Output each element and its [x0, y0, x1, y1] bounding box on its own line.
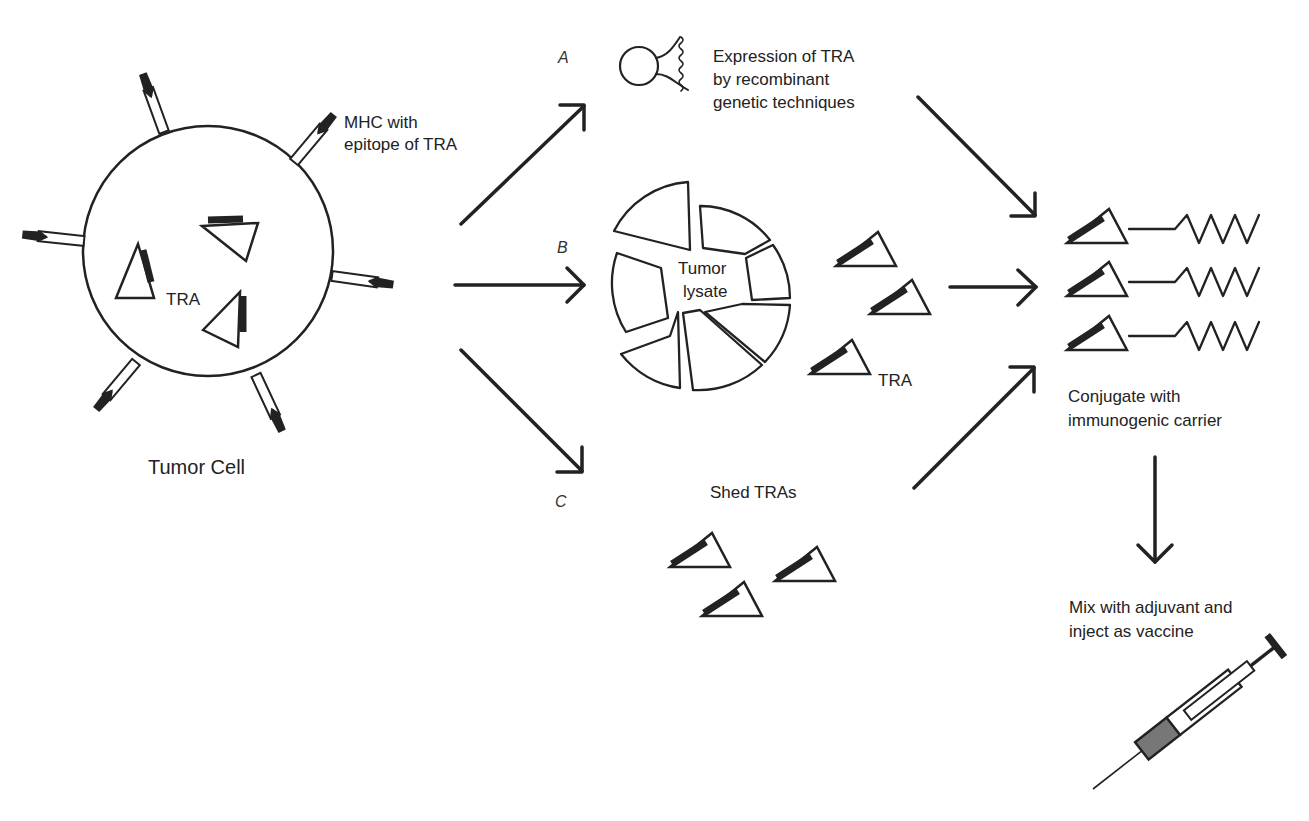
mhc-molecule-icon [290, 111, 338, 165]
tra-antigen-icon [836, 232, 896, 266]
mhc-molecule-icon [22, 230, 85, 246]
tra-carrier-conjugate [1067, 209, 1259, 243]
tra-carrier-conjugate [1067, 262, 1259, 296]
tra-antigen-icon [775, 547, 835, 581]
plasmid-icon [620, 37, 688, 91]
arrow-b-to-conjugate [950, 270, 1036, 305]
conjugate-label-line2: immunogenic carrier [1068, 411, 1222, 430]
tumor-lysate-label-line1: Tumor [678, 259, 727, 278]
mhc-molecule-icon [251, 373, 286, 433]
conjugate-label-line1: Conjugate with [1068, 387, 1180, 406]
tumor-cell: TRA Tumor Cell [22, 72, 394, 478]
tra-antigen-icon [670, 533, 730, 567]
mhc-label-line1: MHC with [344, 113, 418, 132]
pathway-letter-b: B [557, 239, 568, 256]
pathway-a-desc-line3: genetic techniques [713, 93, 855, 112]
tumor-vaccine-diagram: TRA Tumor Cell MHC with epitope of TRA A… [0, 0, 1309, 821]
tumor-cell-label: Tumor Cell [148, 456, 245, 478]
arrow-a-to-conjugate [918, 97, 1035, 216]
tra-carrier-conjugate [1067, 316, 1259, 350]
tra-antigen-icon [810, 340, 870, 374]
tra-inner-label: TRA [166, 290, 201, 309]
mhc-molecule-icon [331, 271, 394, 290]
tumor-lysate-label-line2: lysate [683, 282, 727, 301]
syringe-icon [1084, 635, 1284, 800]
tra-antigen-icon [870, 280, 930, 314]
arrow-to-vaccine [1138, 457, 1172, 562]
arrow-to-c [461, 350, 582, 472]
pathway-letter-a: A [557, 49, 569, 66]
vaccine-label-line1: Mix with adjuvant and [1069, 598, 1232, 617]
mhc-molecule-icon [92, 359, 140, 413]
vaccine-label-line2: inject as vaccine [1069, 622, 1194, 641]
arrow-c-to-conjugate [914, 367, 1034, 488]
pathway-a-desc-line1: Expression of TRA [713, 47, 855, 66]
pathway-letter-c: C [555, 493, 567, 510]
pathway-a-desc-line2: by recombinant [713, 70, 830, 89]
arrow-to-b [455, 268, 584, 302]
tra-antigen-icon [702, 582, 762, 616]
released-tra-label: TRA [878, 371, 913, 390]
mhc-label-line2: epitope of TRA [344, 135, 458, 154]
arrow-to-a [461, 105, 584, 224]
mhc-molecule-icon [138, 72, 169, 134]
shed-tras-label: Shed TRAs [710, 483, 797, 502]
